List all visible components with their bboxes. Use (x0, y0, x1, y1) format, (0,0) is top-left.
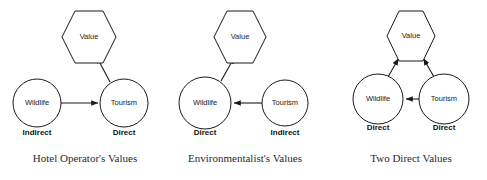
panel-caption: Hotel Operator's Values (33, 152, 137, 164)
role-label-tourism: Indirect (271, 128, 300, 137)
node-value-label: Value (80, 32, 99, 41)
role-label-tourism: Direct (113, 128, 136, 137)
panel-caption: Environmentalist's Values (188, 152, 302, 164)
role-label-wildlife: Direct (194, 128, 217, 137)
node-tourism-label: Tourism (111, 98, 137, 107)
node-tourism-label: Tourism (272, 98, 298, 107)
role-label-wildlife: Indirect (23, 128, 52, 137)
panel-environmentalist-graph: Value Wildlife Tourism (160, 0, 330, 145)
edge-tourism-to-value (424, 59, 435, 78)
node-wildlife-label: Wildlife (193, 98, 217, 107)
role-label-wildlife: Direct (367, 123, 390, 132)
panel-environmentalist: Value Wildlife Tourism Direct Indirect E… (160, 0, 330, 180)
panel-hotel-operator-graph: Value Wildlife Tourism (0, 0, 170, 145)
edge-wildlife-to-value (388, 59, 399, 78)
panel-two-direct-graph: Value Wildlife Tourism (330, 0, 487, 145)
node-wildlife-label: Wildlife (25, 98, 49, 107)
node-tourism-label: Tourism (431, 94, 457, 103)
values-diagram-figure: Value Wildlife Tourism Indirect Direct H… (0, 0, 487, 180)
node-value-label: Value (231, 32, 250, 41)
node-wildlife-label: Wildlife (366, 94, 390, 103)
panel-two-direct: Value Wildlife Tourism Direct Direct Two… (330, 0, 487, 180)
panel-hotel-operator: Value Wildlife Tourism Indirect Direct H… (0, 0, 170, 180)
panel-caption: Two Direct Values (370, 152, 452, 164)
role-label-tourism: Direct (433, 123, 456, 132)
node-value-label: Value (402, 31, 421, 40)
